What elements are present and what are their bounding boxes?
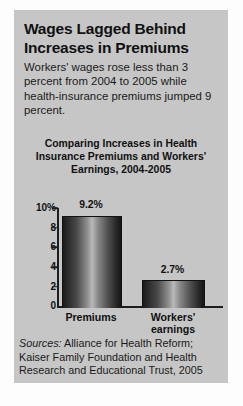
bar-premiums [62, 216, 122, 308]
y-tick-label-8: 8 [22, 223, 56, 233]
bar-value-workers-earnings: 2.7% [142, 264, 203, 275]
y-axis-line [57, 208, 59, 308]
bar-category-workers-earnings: Workers' earnings [136, 311, 210, 336]
chart-title-line-2: Insurance Premiums and Workers' [22, 150, 220, 163]
y-tick-label-10: 10% [22, 203, 56, 213]
sources-label: Sources: [19, 337, 62, 349]
bar-category-workers-line-2: earnings [136, 323, 210, 335]
y-axis: 10% 8 6 4 2 0 [18, 192, 56, 327]
y-tick-label-0: 0 [22, 301, 56, 311]
y-tick-label-2: 2 [22, 282, 56, 292]
y-tick-label-6: 6 [22, 242, 56, 252]
headline-line-2: Increases in Premiums [24, 38, 220, 57]
chart-title-line-1: Comparing Increases in Health [22, 137, 220, 150]
bar-value-premiums: 9.2% [62, 199, 120, 210]
headline-line-1: Wages Lagged Behind [24, 19, 220, 38]
bar-chart: 10% 8 6 4 2 0 9.2% Premiums 2.7% Workers… [14, 192, 228, 327]
chart-title-line-3: Earnings, 2004-2005 [22, 163, 220, 176]
bar-category-workers-line-1: Workers' [136, 311, 210, 323]
deck-paragraph: Workers' wages rose less than 3 percent … [24, 60, 224, 118]
y-tick-label-4: 4 [22, 262, 56, 272]
chart-title: Comparing Increases in Health Insurance … [22, 137, 220, 177]
infographic-panel: Wages Lagged Behind Increases in Premium… [14, 10, 228, 383]
bar-workers-earnings [142, 280, 205, 308]
page-title: Wages Lagged Behind Increases in Premium… [24, 19, 220, 57]
sources-note: Sources: Alliance for Health Reform; Kai… [19, 337, 221, 378]
bar-category-premiums: Premiums [54, 311, 128, 323]
